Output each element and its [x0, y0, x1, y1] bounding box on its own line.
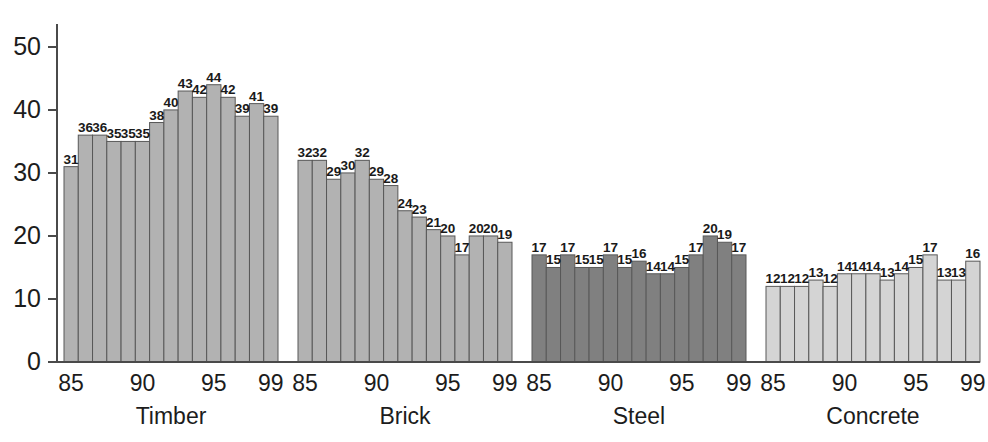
- bar: [546, 267, 560, 362]
- chart-canvas: 01020304050 85909599Timber85909599Brick8…: [0, 0, 988, 442]
- x-tick-label: 99: [492, 370, 518, 396]
- bar-value-label: 36: [78, 120, 94, 135]
- bar-value-label: 30: [340, 158, 355, 173]
- bar-value-label: 17: [532, 240, 547, 255]
- bar: [150, 123, 164, 362]
- x-tick-label: 95: [435, 370, 461, 396]
- bar: [809, 280, 823, 362]
- x-tick-label: 90: [364, 370, 390, 396]
- bar: [398, 211, 412, 362]
- bar-value-label: 15: [617, 252, 633, 267]
- bar-value-label: 31: [64, 152, 80, 167]
- bar-value-label: 13: [808, 265, 824, 280]
- bar: [64, 167, 78, 362]
- bar: [384, 186, 398, 362]
- bar: [369, 179, 383, 362]
- bar-value-label: 40: [163, 95, 178, 110]
- bar: [355, 160, 369, 362]
- bar-value-label: 29: [326, 164, 341, 179]
- x-tick-label: 85: [526, 370, 552, 396]
- bar: [837, 274, 851, 362]
- bar-value-label: 12: [823, 271, 838, 286]
- bar-value-label: 21: [426, 215, 442, 230]
- bar-value-label: 20: [483, 221, 498, 236]
- bar: [966, 261, 980, 362]
- bar-value-label: 16: [965, 246, 981, 261]
- bar-value-label: 42: [221, 82, 236, 97]
- bar: [717, 242, 731, 362]
- x-tick-label: 99: [258, 370, 284, 396]
- bar: [703, 236, 717, 362]
- y-axis: 01020304050: [13, 24, 57, 375]
- x-axis: 85909599Timber85909599Brick85909599Steel…: [57, 362, 986, 429]
- x-tick-label: 99: [726, 370, 752, 396]
- x-tick-label: 90: [598, 370, 624, 396]
- bar-value-label: 23: [412, 202, 428, 217]
- bar: [235, 116, 249, 362]
- bar: [646, 274, 660, 362]
- bar-value-label: 12: [766, 271, 781, 286]
- bar: [894, 274, 908, 362]
- bar: [909, 267, 923, 362]
- bar: [426, 230, 440, 362]
- x-tick-label: 99: [960, 370, 986, 396]
- x-tick-label: 85: [760, 370, 786, 396]
- bar-value-label: 17: [689, 240, 704, 255]
- bar-value-label: 32: [312, 145, 327, 160]
- bar-value-label: 35: [135, 126, 151, 141]
- bar-value-label: 35: [121, 126, 137, 141]
- y-tick-label: 10: [13, 284, 41, 312]
- bar: [823, 286, 837, 362]
- bar: [766, 286, 780, 362]
- bar: [78, 135, 92, 362]
- bar: [561, 255, 575, 362]
- bar-value-label: 15: [574, 252, 590, 267]
- bar: [207, 85, 221, 362]
- x-tick-label: 90: [832, 370, 858, 396]
- y-tick-label: 50: [13, 32, 41, 60]
- bar: [298, 160, 312, 362]
- bar: [178, 91, 192, 362]
- bar: [107, 141, 121, 362]
- bar-value-label: 16: [631, 246, 647, 261]
- x-tick-label: 95: [201, 370, 227, 396]
- bar-value-label: 17: [603, 240, 618, 255]
- bar: [923, 255, 937, 362]
- group-label-timber: Timber: [136, 403, 207, 429]
- bar-value-label: 39: [235, 101, 250, 116]
- bar-value-label: 14: [894, 259, 910, 274]
- bar: [264, 116, 278, 362]
- bar-value-label: 15: [546, 252, 562, 267]
- bar-value-label: 12: [780, 271, 795, 286]
- bar: [164, 110, 178, 362]
- bar-value-label: 20: [703, 221, 718, 236]
- bar-value-label: 35: [106, 126, 122, 141]
- bar: [441, 236, 455, 362]
- bar-value-label: 29: [369, 164, 384, 179]
- x-tick-label: 85: [292, 370, 318, 396]
- bar: [660, 274, 674, 362]
- bar-value-label: 43: [178, 76, 194, 91]
- bar: [852, 274, 866, 362]
- bar: [732, 255, 746, 362]
- bar: [312, 160, 326, 362]
- bar-value-label: 13: [951, 265, 967, 280]
- bar-value-label: 32: [355, 145, 370, 160]
- bar-chart: 01020304050 85909599Timber85909599Brick8…: [0, 0, 988, 442]
- y-tick-label: 40: [13, 95, 41, 123]
- bars-layer: [64, 85, 980, 362]
- bar: [632, 261, 646, 362]
- bar-value-label: 14: [865, 259, 881, 274]
- bar: [880, 280, 894, 362]
- x-tick-label: 90: [130, 370, 156, 396]
- bar-value-label: 32: [298, 145, 313, 160]
- bar-value-label: 42: [192, 82, 207, 97]
- bar-value-label: 28: [383, 171, 399, 186]
- x-tick-label: 95: [669, 370, 695, 396]
- bar-value-label: 19: [717, 227, 732, 242]
- bar-value-label: 44: [206, 70, 222, 85]
- bar-value-label: 41: [249, 89, 265, 104]
- bar-value-label: 12: [794, 271, 809, 286]
- bar: [341, 173, 355, 362]
- bar: [469, 236, 483, 362]
